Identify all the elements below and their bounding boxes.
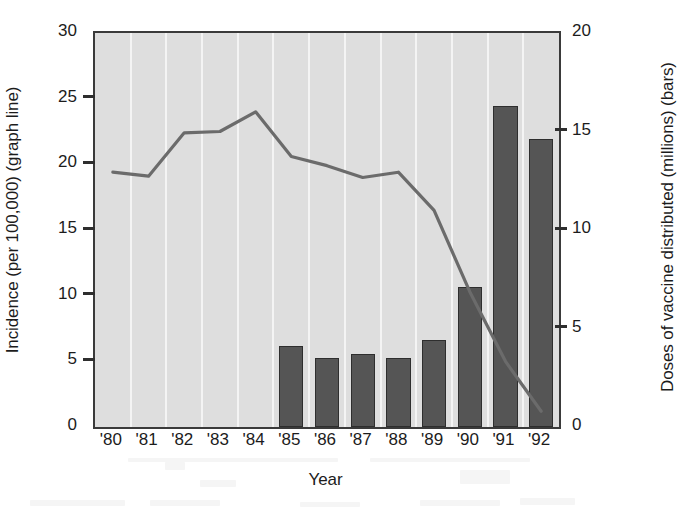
- y-tick-label-right: 5: [572, 317, 612, 337]
- y-tick-label-left: 15: [37, 218, 77, 238]
- y-tick-label-right: 15: [572, 120, 612, 140]
- plot-area: [93, 31, 561, 429]
- y-tick-label-left: 25: [37, 87, 77, 107]
- scan-artifact: [165, 462, 185, 470]
- incidence-line: [113, 112, 541, 411]
- y-tick-left: [83, 227, 95, 230]
- y-tick-label-right: 20: [572, 21, 612, 41]
- x-tick-label: '86: [305, 430, 345, 450]
- scan-artifact: [300, 502, 360, 507]
- y-tick-label-left: 10: [37, 284, 77, 304]
- x-tick-label: '85: [269, 430, 309, 450]
- scan-artifact: [420, 500, 500, 506]
- y-tick-left: [83, 161, 95, 164]
- scan-artifact: [150, 500, 220, 506]
- y-axis-left-title: Incidence (per 100,000) (graph line): [0, 0, 26, 440]
- y-tick-label-left: 20: [37, 152, 77, 172]
- scan-artifact: [128, 458, 338, 462]
- x-tick-label: '81: [127, 430, 167, 450]
- x-axis-title: Year: [93, 470, 558, 490]
- y-tick-left: [83, 292, 95, 295]
- x-tick-label: '91: [483, 430, 523, 450]
- y-axis-right-title: Doses of vaccine distributed (millions) …: [655, 2, 681, 452]
- plot-inner: [95, 33, 559, 427]
- x-tick-label: '84: [234, 430, 274, 450]
- x-tick-label: '92: [519, 430, 559, 450]
- y-tick-label-right: 10: [572, 218, 612, 238]
- y-tick-label-left: 30: [37, 21, 77, 41]
- line-series: [95, 33, 559, 427]
- x-tick-label: '87: [341, 430, 381, 450]
- y-tick-left: [83, 95, 95, 98]
- y-tick-label-right: 0: [572, 415, 612, 435]
- y-tick-label-left: 0: [37, 415, 77, 435]
- x-tick-label: '88: [376, 430, 416, 450]
- x-tick-label: '82: [162, 430, 202, 450]
- chart-figure: Incidence (per 100,000) (graph line) Dos…: [0, 0, 681, 516]
- x-tick-label: '89: [412, 430, 452, 450]
- x-tick-label: '80: [91, 430, 131, 450]
- y-tick-right: [555, 325, 567, 328]
- y-tick-right: [555, 128, 567, 131]
- scan-artifact: [520, 498, 575, 505]
- scan-artifact: [370, 458, 530, 462]
- scan-artifact: [30, 500, 125, 506]
- x-tick-label: '90: [448, 430, 488, 450]
- y-tick-label-left: 5: [37, 349, 77, 369]
- y-tick-right: [555, 227, 567, 230]
- x-tick-label: '83: [198, 430, 238, 450]
- y-tick-left: [83, 358, 95, 361]
